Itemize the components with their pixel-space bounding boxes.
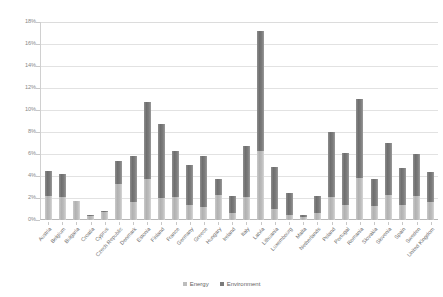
x-axis-tick (204, 222, 205, 225)
x-axis-cell: Romania (353, 222, 367, 280)
bar-group (395, 22, 409, 220)
bar-segment-environment (115, 161, 122, 184)
stacked-bar[interactable] (115, 161, 122, 220)
x-axis-cell: Austria (41, 222, 55, 280)
stacked-bar[interactable] (286, 193, 293, 221)
x-axis-cell: Ireland (225, 222, 239, 280)
stacked-bar[interactable] (229, 196, 236, 220)
stacked-bar[interactable] (59, 174, 66, 220)
bar-segment-energy (172, 197, 179, 220)
stacked-bar[interactable] (342, 153, 349, 220)
stacked-bar[interactable] (356, 99, 363, 220)
bar-group (169, 22, 183, 220)
bar-segment-energy (158, 198, 165, 220)
bar-group (339, 22, 353, 220)
bar-group (268, 22, 282, 220)
y-axis-tick-label: 8% (6, 128, 36, 134)
x-axis-tick (232, 222, 233, 225)
stacked-bar[interactable] (314, 196, 321, 220)
x-axis-tick (246, 222, 247, 225)
x-axis: AustriaBelgiumBulgariaCroatiaCyprusCzech… (41, 222, 438, 280)
bar-segment-energy (427, 202, 434, 220)
bar-segment-energy (328, 197, 335, 220)
bar-segment-energy (59, 197, 66, 220)
bar-group (41, 22, 55, 220)
x-axis-tick-label: Italy (240, 226, 251, 237)
y-axis-tick (36, 44, 40, 45)
x-axis-tick (161, 222, 162, 225)
bar-segment-environment (59, 174, 66, 197)
stacked-bar[interactable] (158, 124, 165, 220)
y-axis-tick-label: 12% (6, 84, 36, 90)
stacked-bar[interactable] (130, 156, 137, 220)
bar-group (98, 22, 112, 220)
x-axis-tick (388, 222, 389, 225)
y-axis-tick (36, 110, 40, 111)
y-axis-tick-label: 14% (6, 62, 36, 68)
bar-segment-energy (200, 207, 207, 220)
y-axis-tick (36, 220, 40, 221)
stacked-bar[interactable] (45, 171, 52, 220)
x-axis-cell: Slovakia (367, 222, 381, 280)
stacked-bar[interactable] (101, 211, 108, 220)
x-axis-tick (218, 222, 219, 225)
stacked-bar[interactable] (399, 168, 406, 220)
legend-item-environment[interactable]: Environment (220, 281, 261, 287)
bar-segment-environment (271, 167, 278, 209)
x-axis-tick (133, 222, 134, 225)
bar-segment-energy (186, 205, 193, 220)
bar-segment-environment (215, 179, 222, 194)
x-axis-cell: Estonia (140, 222, 154, 280)
stacked-bar[interactable] (186, 165, 193, 220)
stacked-bar[interactable] (427, 172, 434, 220)
x-axis-cell: Hungary (211, 222, 225, 280)
stacked-bar[interactable] (243, 146, 250, 220)
x-axis-tick (261, 222, 262, 225)
bar-segment-energy (73, 201, 80, 220)
bar-segment-environment (172, 151, 179, 197)
stacked-bar[interactable] (215, 179, 222, 220)
bar-segment-energy (342, 205, 349, 220)
bar-segment-environment (257, 31, 264, 151)
stacked-bar[interactable] (200, 156, 207, 220)
stacked-bar[interactable] (271, 167, 278, 220)
x-axis-tick (417, 222, 418, 225)
stacked-bar[interactable] (87, 215, 94, 220)
stacked-bar[interactable] (413, 154, 420, 220)
bar-segment-energy (257, 151, 264, 220)
bar-segment-environment (45, 171, 52, 196)
stacked-bar[interactable] (385, 143, 392, 220)
x-axis-cell: Belgium (55, 222, 69, 280)
bar-group (154, 22, 168, 220)
stacked-bar[interactable] (73, 201, 80, 220)
x-axis-tick (91, 222, 92, 225)
bar-group (381, 22, 395, 220)
bar-segment-energy (399, 205, 406, 220)
x-axis-cell: France (169, 222, 183, 280)
bar-segment-energy (413, 196, 420, 220)
y-axis-tick-label: 0% (6, 216, 36, 222)
bar-segment-environment (130, 156, 137, 202)
bar-group (239, 22, 253, 220)
bar-segment-energy (229, 213, 236, 220)
legend-label-environment: Environment (227, 281, 261, 287)
legend-item-energy[interactable]: Energy (183, 281, 209, 287)
bar-group (84, 22, 98, 220)
stacked-bar[interactable] (257, 31, 264, 220)
x-axis-cell: Lithuania (268, 222, 282, 280)
bar-segment-energy (115, 184, 122, 220)
bar-group (55, 22, 69, 220)
stacked-bar[interactable] (172, 151, 179, 220)
stacked-bar[interactable] (328, 132, 335, 220)
bar-segment-environment (427, 172, 434, 203)
x-axis-tick (374, 222, 375, 225)
x-axis-cell: Greece (197, 222, 211, 280)
x-axis-cell: Italy (239, 222, 253, 280)
stacked-bar[interactable] (144, 102, 151, 220)
x-axis-cell: Portugal (339, 222, 353, 280)
bar-segment-energy (130, 202, 137, 220)
y-axis-tick-label: 4% (6, 172, 36, 178)
bar-group (424, 22, 438, 220)
stacked-bar[interactable] (371, 179, 378, 220)
stacked-bar[interactable] (300, 215, 307, 220)
